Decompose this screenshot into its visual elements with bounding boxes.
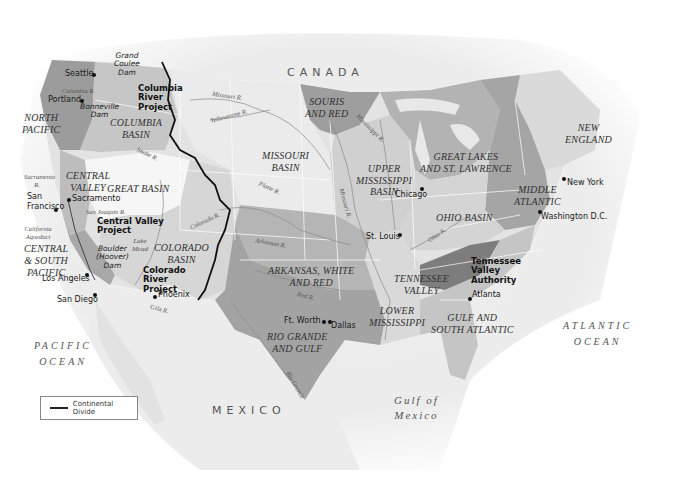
line: CENTRAL bbox=[66, 170, 110, 182]
line: Project bbox=[97, 226, 164, 235]
line: LOWER bbox=[369, 305, 425, 317]
line: MISSISSIPPI bbox=[356, 175, 412, 187]
label-columbia-river: Columbia R. bbox=[62, 88, 95, 95]
city-san-francisco: San Francisco bbox=[27, 192, 57, 211]
label-atlantic-line2: OCEAN bbox=[563, 334, 632, 350]
city-seattle: Seattle bbox=[65, 70, 93, 78]
map-legend: Continental Divide bbox=[40, 396, 138, 420]
line: Project bbox=[138, 103, 183, 112]
label-boulder-hoover-dam: Boulder(Hoover)Dam bbox=[96, 245, 129, 270]
label-grand-coulee-dam: GrandCouleeDam bbox=[114, 52, 140, 77]
city-san-diego: San Diego bbox=[57, 296, 98, 304]
line: Dam bbox=[96, 262, 129, 270]
label-california-aqueduct: California Aqueduct bbox=[22, 225, 54, 241]
line: AND GULF bbox=[267, 343, 328, 355]
line: COLORADO bbox=[154, 242, 209, 254]
label-middle-atlantic: MIDDLEATLANTIC bbox=[514, 184, 561, 207]
line: Dam bbox=[80, 111, 119, 119]
line: MISSOURI bbox=[262, 150, 309, 162]
label-bonneville-dam: BonnevilleDam bbox=[80, 103, 119, 120]
label-tennessee-valley: TENNESSEEVALLEY bbox=[394, 273, 449, 296]
label-great-basin: GREAT BASIN bbox=[107, 184, 169, 194]
line: Dam bbox=[114, 69, 140, 77]
line: OHIO BASIN bbox=[436, 213, 493, 223]
line: VALLEY bbox=[66, 182, 110, 194]
line: PACIFIC bbox=[22, 124, 60, 136]
line: TENNESSEE bbox=[394, 273, 449, 285]
label-colorado-basin: COLORADOBASIN bbox=[154, 242, 209, 265]
line: SOUTH ATLANTIC bbox=[431, 324, 514, 336]
label-pacific-line2: OCEAN bbox=[34, 354, 92, 370]
label-gulf-south-atlantic: GULF ANDSOUTH ATLANTIC bbox=[431, 312, 514, 335]
line: NEW bbox=[565, 122, 612, 134]
label-colorado-river-project: ColoradoRiverProject bbox=[143, 266, 186, 294]
label-mexico: MEXICO bbox=[212, 405, 286, 416]
city-sacramento: Sacramento bbox=[72, 195, 120, 203]
label-missouri-basin: MISSOURIBASIN bbox=[262, 150, 309, 173]
legend-label: Continental Divide bbox=[73, 400, 137, 416]
label-sacramento-river: Sacramento R. bbox=[24, 173, 50, 189]
label-atlantic-line1: ATLANTIC bbox=[563, 318, 632, 334]
line: ATLANTIC bbox=[514, 196, 561, 208]
line: Authority bbox=[471, 276, 521, 285]
label-central-valley: CENTRALVALLEY bbox=[66, 170, 110, 193]
line: VALLEY bbox=[394, 285, 449, 297]
city-dallas: Dallas bbox=[331, 322, 356, 330]
line: AND ST. LAWRENCE bbox=[420, 163, 512, 175]
line: MIDDLE bbox=[514, 184, 561, 196]
city-dot-ft-worth bbox=[322, 320, 326, 324]
line: GREAT LAKES bbox=[420, 151, 512, 163]
city-atlanta: Atlanta bbox=[472, 291, 501, 299]
city-ft-worth: Ft. Worth bbox=[284, 317, 321, 325]
line: NORTH bbox=[22, 112, 60, 124]
label-souris-and-red: SOURISAND RED bbox=[305, 96, 348, 119]
line: RIO GRANDE bbox=[267, 331, 328, 343]
label-north-pacific: NORTHPACIFIC bbox=[22, 112, 60, 135]
label-gulf-line1: Gulf of bbox=[394, 393, 439, 408]
label-pacific-line1: PACIFIC bbox=[34, 338, 92, 354]
label-columbia-basin: COLUMBIABASIN bbox=[110, 117, 162, 140]
line: BASIN bbox=[110, 129, 162, 141]
line: GREAT BASIN bbox=[107, 184, 169, 194]
line: ENGLAND bbox=[565, 134, 612, 146]
label-pacific-ocean: PACIFIC OCEAN bbox=[34, 338, 92, 370]
line: & SOUTH bbox=[24, 255, 68, 267]
label-atlantic-ocean: ATLANTIC OCEAN bbox=[563, 318, 632, 350]
label-gulf-of-mexico: Gulf of Mexico bbox=[394, 393, 439, 424]
label-central-valley-project: Central ValleyProject bbox=[97, 217, 164, 236]
line: MISSISSIPPI bbox=[369, 317, 425, 329]
city-new-york: New York bbox=[567, 179, 604, 187]
label-san-joaquin-river: San Joaquin R. bbox=[86, 209, 126, 216]
line: GULF AND bbox=[431, 312, 514, 324]
line: Project bbox=[143, 285, 186, 294]
city-los-angeles: Los Angeles bbox=[42, 275, 90, 283]
label-rio-grande-gulf: RIO GRANDEAND GULF bbox=[267, 331, 328, 354]
line: BASIN bbox=[154, 254, 209, 266]
label-gulf-line2: Mexico bbox=[394, 408, 439, 423]
continental-divide-swatch bbox=[50, 407, 68, 409]
city-dot-sacramento bbox=[67, 198, 71, 202]
label-canada: CANADA bbox=[287, 67, 364, 78]
label-arkansas-white-red: ARKANSAS, WHITEAND RED bbox=[268, 265, 354, 288]
city-chicago: Chicago bbox=[395, 191, 427, 199]
city-dot-new-york bbox=[562, 177, 566, 181]
line: ARKANSAS, WHITE bbox=[268, 265, 354, 277]
city-st-louis: St. Louis bbox=[366, 233, 400, 241]
label-lower-mississippi: LOWERMISSISSIPPI bbox=[369, 305, 425, 328]
line: CENTRAL bbox=[24, 243, 68, 255]
line: AND RED bbox=[268, 277, 354, 289]
line: AND RED bbox=[305, 108, 348, 120]
label-columbia-river-project: ColumbiaRiverProject bbox=[138, 84, 183, 112]
label-ohio-basin: OHIO BASIN bbox=[436, 213, 493, 223]
line: SOURIS bbox=[305, 96, 348, 108]
city-dot-phoenix bbox=[153, 295, 157, 299]
city-portland: Portland bbox=[48, 96, 81, 104]
line: UPPER bbox=[356, 163, 412, 175]
label-great-lakes: GREAT LAKESAND ST. LAWRENCE bbox=[420, 151, 512, 174]
label-new-england: NEWENGLAND bbox=[565, 122, 612, 145]
city-washington-dc: Washington D.C. bbox=[541, 213, 607, 221]
label-tennessee-valley-authority: TennesseeValleyAuthority bbox=[471, 257, 521, 285]
label-lake-mead: Lake Mead bbox=[131, 237, 149, 254]
line: BASIN bbox=[262, 162, 309, 174]
